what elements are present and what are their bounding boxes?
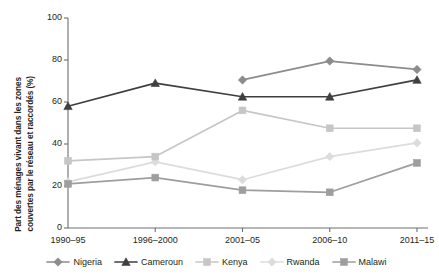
data-point-marker <box>152 153 159 160</box>
data-point-marker <box>414 160 421 167</box>
x-tick-label: 2001–05 <box>208 235 278 245</box>
plot-area <box>0 0 433 252</box>
legend-marker-square-icon <box>195 256 219 268</box>
y-axis-title-line-2: couvertes par le réseau et raccordés (%) <box>26 76 34 232</box>
y-tick-label: 60 <box>36 96 62 106</box>
y-tick-label: 0 <box>36 222 62 232</box>
y-tick-label: 100 <box>36 12 62 22</box>
data-point-marker <box>267 258 275 266</box>
legend-marker-diamond-icon <box>46 256 70 268</box>
data-point-marker <box>152 174 159 181</box>
data-point-marker <box>340 259 347 266</box>
x-tick-label: 2011–15 <box>382 235 439 245</box>
x-tick-label: 1990–95 <box>33 235 103 245</box>
data-point-marker <box>239 187 246 194</box>
legend-label: Malawi <box>359 257 387 267</box>
legend-item-nigeria[interactable]: Nigeria <box>46 256 102 268</box>
data-point-marker <box>326 189 333 196</box>
x-tick-label: 1996–2000 <box>120 235 190 245</box>
y-axis-ticks <box>64 18 68 228</box>
data-point-marker <box>414 125 421 132</box>
legend-marker-triangle-icon <box>114 256 138 268</box>
legend-marker-square-icon <box>332 256 356 268</box>
data-point-marker <box>65 181 72 188</box>
legend-label: Rwanda <box>287 257 320 267</box>
y-tick-label: 20 <box>36 180 62 190</box>
chart-legend: NigeriaCamerounKenyaRwandaMalawi <box>0 252 433 272</box>
series-kenya <box>65 107 421 164</box>
legend-label: Cameroun <box>141 257 183 267</box>
legend-item-cameroun[interactable]: Cameroun <box>114 256 183 268</box>
data-point-marker <box>65 157 72 164</box>
legend-item-malawi[interactable]: Malawi <box>332 256 387 268</box>
y-axis-title-line-1: Part des ménages vivant dans les zones <box>14 77 22 232</box>
data-point-marker <box>413 139 421 147</box>
data-point-marker <box>54 258 62 266</box>
legend-item-kenya[interactable]: Kenya <box>195 256 248 268</box>
data-point-marker <box>238 76 246 84</box>
legend-label: Kenya <box>222 257 248 267</box>
legend-marker-diamond-icon <box>260 256 284 268</box>
axis-lines <box>68 18 428 228</box>
data-point-marker <box>326 152 334 160</box>
x-axis-ticks <box>155 228 417 232</box>
series-nigeria <box>238 57 421 84</box>
y-axis-title: Part des ménages vivant dans les zones c… <box>0 0 44 234</box>
data-point-marker <box>238 176 246 184</box>
data-point-marker <box>326 57 334 65</box>
legend-item-rwanda[interactable]: Rwanda <box>260 256 320 268</box>
legend-label: Nigeria <box>73 257 102 267</box>
data-point-marker <box>326 125 333 132</box>
y-tick-label: 40 <box>36 138 62 148</box>
x-tick-label: 2006–10 <box>295 235 365 245</box>
data-point-marker <box>204 259 211 266</box>
data-point-marker <box>413 76 421 84</box>
data-point-marker <box>239 107 246 114</box>
y-tick-label: 80 <box>36 54 62 64</box>
data-point-marker <box>413 65 421 73</box>
